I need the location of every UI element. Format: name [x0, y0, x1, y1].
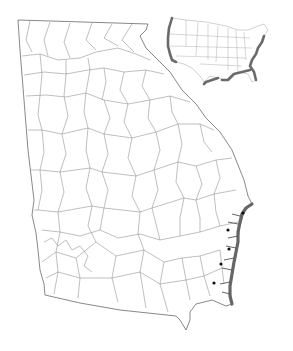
location-marker [226, 228, 229, 231]
location-marker [219, 262, 222, 265]
location-marker [212, 281, 215, 284]
location-marker [241, 211, 244, 214]
us-inset-map [168, 18, 268, 84]
figure [0, 0, 293, 351]
georgia-map [0, 0, 293, 351]
location-marker [227, 247, 230, 250]
